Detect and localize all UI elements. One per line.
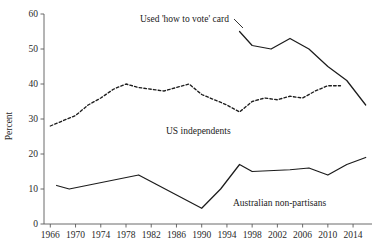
- y-tick-label: 50: [29, 44, 39, 54]
- y-tick-label: 20: [29, 149, 39, 159]
- line-chart-figure: 0102030405060 19661970197419781982198619…: [0, 0, 382, 252]
- chart-container: 0102030405060 19661970197419781982198619…: [0, 0, 382, 252]
- x-tick-label: 2010: [318, 230, 337, 240]
- x-tick-label: 1998: [243, 230, 262, 240]
- y-tick-label: 30: [29, 114, 39, 124]
- x-tick-label: 1994: [217, 230, 236, 240]
- x-tick-label: 1982: [142, 230, 161, 240]
- x-tick-label: 1978: [117, 230, 136, 240]
- australian-nonpartisans-label: Australian non-partisans: [233, 198, 326, 208]
- us-independents-label: US independents: [166, 126, 231, 136]
- x-tick-label: 1990: [192, 230, 211, 240]
- htv-card-label: Used 'how to vote' card: [140, 14, 229, 24]
- y-axis-title: Percent: [4, 111, 14, 140]
- y-tick-label: 0: [33, 219, 38, 229]
- x-tick-label: 2014: [344, 230, 363, 240]
- y-tick-label: 10: [29, 184, 39, 194]
- x-tick-label: 2002: [268, 230, 287, 240]
- x-tick-label: 1970: [66, 230, 85, 240]
- x-tick-label: 1974: [91, 230, 110, 240]
- x-tick-label: 1966: [41, 230, 60, 240]
- y-tick-label: 40: [29, 79, 39, 89]
- y-tick-label: 60: [29, 9, 39, 19]
- x-tick-label: 2006: [293, 230, 312, 240]
- x-tick-label: 1986: [167, 230, 186, 240]
